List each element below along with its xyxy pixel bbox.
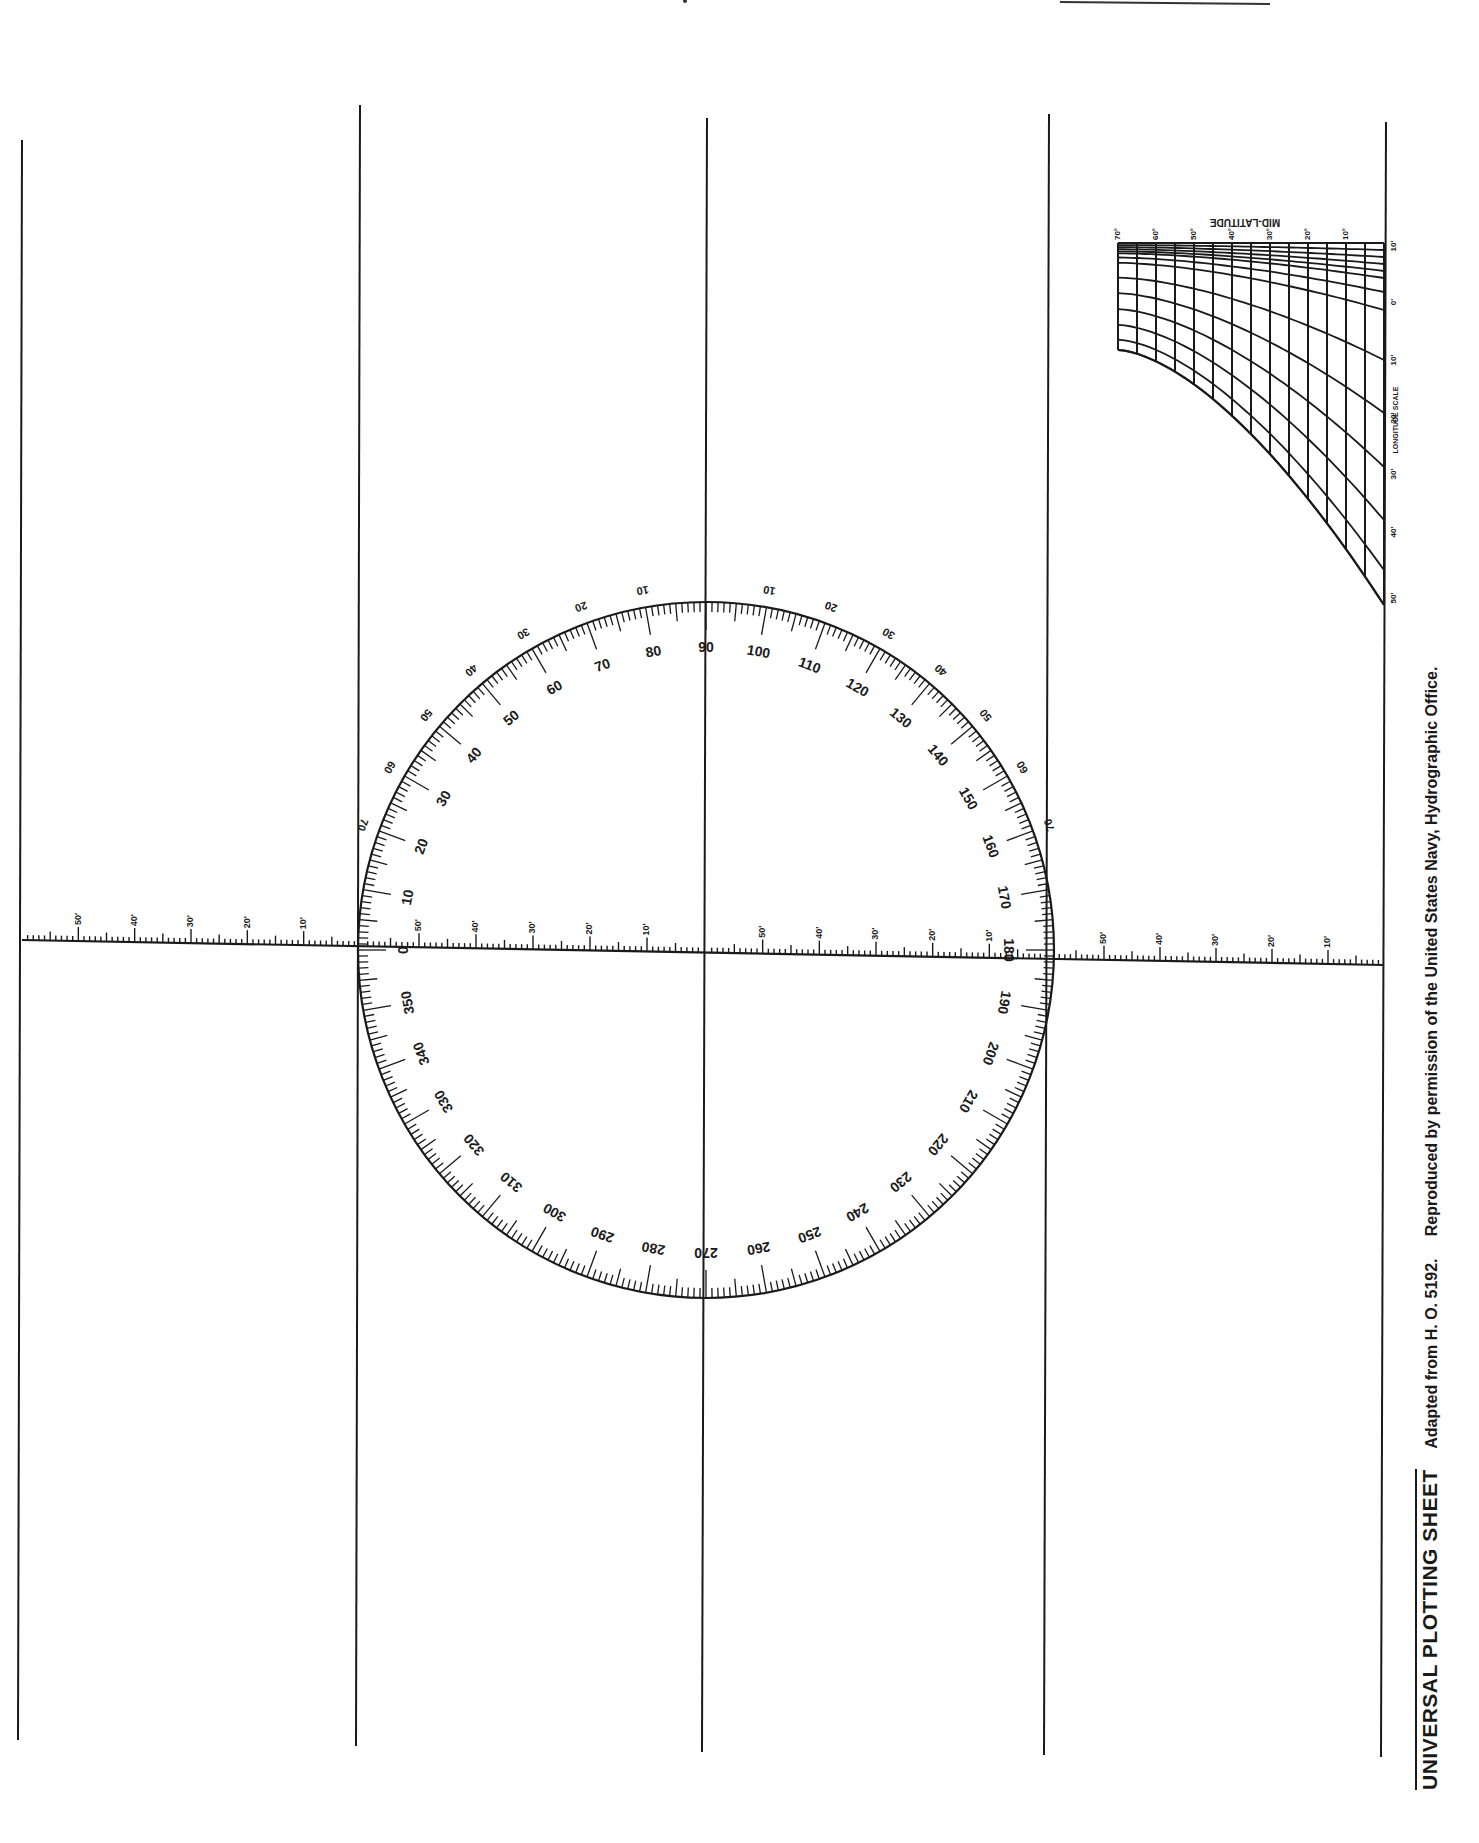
degree-tick <box>443 722 451 729</box>
bearing-label: 300 <box>540 1200 568 1226</box>
degree-tick <box>932 1201 939 1208</box>
degree-tick <box>827 1266 831 1275</box>
degree-tick <box>482 1195 500 1216</box>
centerline <box>22 940 1384 965</box>
degree-tick <box>456 1185 463 1192</box>
degree-tick <box>895 661 901 669</box>
degree-tick <box>1007 1103 1016 1108</box>
minute-label: 20' <box>584 922 594 934</box>
degree-tick <box>383 1077 392 1081</box>
degree-tick <box>391 803 407 811</box>
degree-tick <box>1019 820 1028 824</box>
degree-tick <box>1041 908 1051 909</box>
degree-tick <box>854 637 858 646</box>
degree-tick <box>909 1220 915 1228</box>
degree-tick <box>770 608 772 618</box>
degree-tick <box>358 932 368 933</box>
degree-tick <box>983 1110 1007 1124</box>
degree-tick <box>937 695 944 702</box>
degree-tick <box>676 603 678 621</box>
degree-tick <box>932 691 939 698</box>
degree-tick <box>501 1223 507 1231</box>
bearing-label: 120 <box>844 675 872 701</box>
degree-tick <box>986 755 994 761</box>
degree-tick <box>469 1197 476 1204</box>
degree-tick <box>1002 1114 1011 1119</box>
degree-tick <box>953 713 960 720</box>
degree-tick <box>816 621 819 630</box>
degree-tick <box>747 1285 748 1295</box>
degree-tick <box>989 760 997 765</box>
degree-tick <box>989 1134 997 1139</box>
degree-tick <box>753 605 754 615</box>
angle-label-left: 20 <box>573 599 589 614</box>
degree-tick <box>652 606 654 616</box>
degree-tick <box>735 603 737 621</box>
degree-tick <box>1034 1032 1044 1034</box>
degree-tick <box>399 787 408 792</box>
degree-tick <box>865 1248 870 1257</box>
degree-tick <box>364 884 374 886</box>
degree-tick <box>516 658 521 666</box>
degree-tick <box>358 968 368 969</box>
bearing-label: 340 <box>409 1040 432 1068</box>
degree-tick <box>838 630 842 639</box>
degree-tick <box>391 1089 407 1097</box>
degree-tick <box>451 1181 458 1188</box>
degree-tick <box>501 668 507 676</box>
bearing-label: 100 <box>746 641 772 661</box>
bearing-label: 260 <box>746 1239 772 1259</box>
degree-tick <box>912 683 930 704</box>
degree-tick <box>399 1109 408 1114</box>
bearing-label: 40 <box>463 744 485 766</box>
degree-tick <box>1031 854 1041 857</box>
degree-tick <box>805 617 808 627</box>
degree-tick <box>937 1197 944 1204</box>
minute-label: 40' <box>1154 933 1164 945</box>
degree-tick <box>870 646 875 655</box>
degree-tick <box>439 726 460 744</box>
meridian-line <box>702 118 707 1752</box>
degree-tick <box>610 615 613 625</box>
angle-label-left: 60 <box>382 759 399 776</box>
bearing-label: 280 <box>640 1239 666 1259</box>
degree-tick <box>564 632 568 641</box>
degree-tick <box>439 1156 460 1174</box>
degree-tick <box>1005 1089 1021 1097</box>
degree-tick <box>473 1201 480 1208</box>
degree-tick <box>482 683 500 704</box>
sheet-title: UNIVERSAL PLOTTING SHEET <box>1415 1469 1441 1790</box>
degree-tick <box>859 640 864 649</box>
degree-tick <box>682 603 683 613</box>
degree-tick <box>865 643 870 652</box>
degree-tick <box>359 974 369 975</box>
bearing-label: 250 <box>796 1223 824 1246</box>
degree-tick <box>527 652 532 661</box>
bearing-label: 160 <box>979 833 1002 861</box>
degree-tick <box>363 890 391 895</box>
degree-tick <box>788 612 790 622</box>
degree-tick <box>845 1249 853 1265</box>
degree-tick <box>576 1263 580 1272</box>
degree-tick <box>885 655 890 663</box>
bearing-label: 30 <box>433 787 455 809</box>
degree-tick <box>961 1172 969 1179</box>
longitude-label: 10' <box>1389 241 1398 252</box>
degree-tick <box>741 1286 742 1296</box>
bearing-label: 20 <box>411 836 431 856</box>
degree-tick <box>386 814 395 818</box>
degree-tick <box>373 848 383 851</box>
degree-tick <box>1010 797 1019 801</box>
degree-tick <box>1041 902 1051 903</box>
degree-tick <box>957 1176 964 1183</box>
bearing-label: 310 <box>497 1169 525 1196</box>
degree-tick <box>411 1129 419 1134</box>
degree-tick <box>386 1082 395 1086</box>
degree-tick <box>537 1246 542 1255</box>
degree-tick <box>1035 872 1045 874</box>
degree-tick <box>833 627 837 636</box>
degree-tick <box>424 1149 432 1155</box>
degree-tick <box>381 1071 390 1075</box>
degree-tick <box>953 1181 960 1188</box>
degree-tick <box>428 1153 436 1159</box>
